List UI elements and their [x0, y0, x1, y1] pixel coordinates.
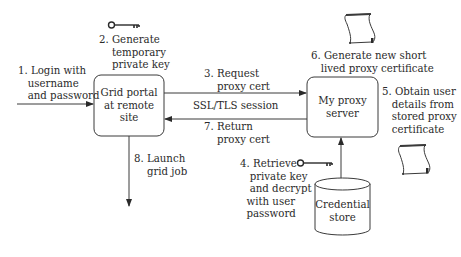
step-5-label: 5. Obtain user details from stored proxy…: [382, 86, 457, 136]
step-3-label: 3. Request proxy cert: [204, 68, 270, 93]
ssl-session-label: SSL/TLS session: [193, 100, 278, 113]
step-2-label: 2. Generate temporary private key: [99, 34, 170, 72]
grid-portal-label: Grid portal at remote site: [94, 87, 164, 125]
step-1-label: 1. Login with username and password: [18, 65, 99, 103]
credential-store-label: Credential store: [315, 199, 370, 224]
proxy-server-label: My proxy server: [307, 95, 378, 120]
step-7-label: 7. Return proxy cert: [204, 121, 270, 146]
step-8-label: 8. Launch grid job: [134, 153, 187, 178]
certificate-scroll-icon: [399, 145, 430, 175]
key-icon: [109, 22, 140, 28]
diagram-canvas: Grid portal at remote site My proxy serv…: [0, 0, 461, 257]
step-6-label: 6. Generate new short lived proxy certif…: [311, 50, 434, 75]
step-4-label: 4. Retrieve private key and decrypt with…: [240, 158, 312, 221]
certificate-scroll-icon: [345, 14, 375, 44]
